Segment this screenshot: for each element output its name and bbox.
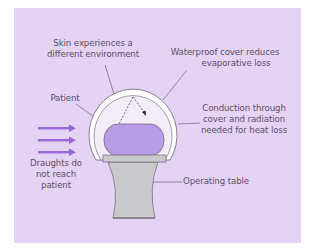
label-conduction-line1: Conduction through — [195, 103, 293, 114]
label-conduction-line2: cover and radiation — [195, 114, 293, 125]
label-patient: Patient — [44, 93, 86, 104]
label-draughts-line2: not reach — [24, 169, 88, 180]
table-top — [103, 155, 166, 162]
label-waterproof-line2: evaporative loss — [160, 58, 290, 69]
label-draughts: Draughts do not reach patient — [24, 158, 88, 191]
label-draughts-line1: Draughts do — [24, 158, 88, 169]
label-waterproof-line1: Waterproof cover reduces — [160, 47, 290, 58]
label-conduction-line3: needed for heat loss — [195, 125, 293, 136]
label-waterproof: Waterproof cover reduces evaporative los… — [160, 47, 290, 69]
label-skin: Skin experiences a different environment — [38, 38, 148, 60]
patient-body — [104, 124, 164, 156]
waterproof-leader-line — [163, 70, 187, 100]
draught-arrows — [38, 125, 76, 157]
label-draughts-line3: patient — [24, 180, 88, 191]
label-conduction: Conduction through cover and radiation n… — [195, 103, 293, 136]
label-table: Operating table — [183, 176, 253, 187]
table-pedestal — [108, 162, 158, 218]
label-skin-line1: Skin experiences a — [38, 38, 148, 49]
label-skin-line2: different environment — [38, 49, 148, 60]
